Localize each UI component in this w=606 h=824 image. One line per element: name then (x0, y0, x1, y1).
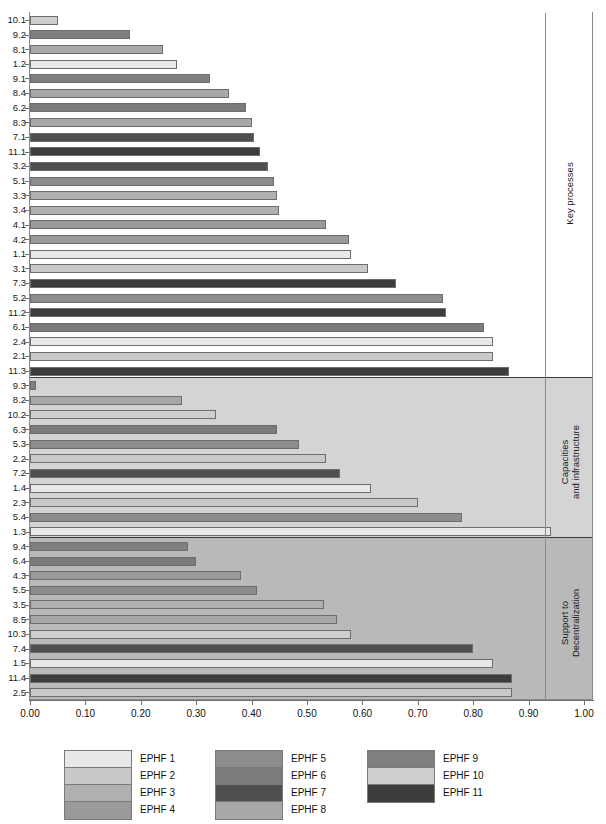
bar-row: 9.1 (0, 71, 594, 85)
bar-row: 6.2 (0, 101, 594, 115)
y-axis-tick (25, 195, 29, 196)
y-axis-tick (25, 546, 29, 547)
bar (30, 337, 493, 346)
bar-row: 8.2 (0, 393, 594, 407)
x-axis-tick (196, 700, 197, 705)
y-axis-tick (25, 532, 29, 533)
x-axis-tick-label: 0.00 (10, 708, 50, 719)
y-axis-label: 4.2 (0, 235, 26, 245)
legend-label: EPHF 6 (291, 767, 326, 784)
bar (30, 410, 216, 419)
bar (30, 177, 274, 186)
legend-swatches-2 (215, 750, 283, 820)
bar-row: 4.3 (0, 568, 594, 582)
y-axis-tick (25, 649, 29, 650)
bar (30, 615, 337, 624)
bar (30, 527, 551, 536)
legend-label: EPHF 1 (140, 750, 175, 767)
legend-swatch (216, 768, 282, 785)
bar (30, 323, 484, 332)
y-axis-label: 1.5 (0, 658, 26, 668)
bar-row: 8.3 (0, 115, 594, 129)
legend-swatches-1 (64, 750, 132, 820)
y-axis-label: 2.3 (0, 498, 26, 508)
y-axis-label: 4.1 (0, 220, 26, 230)
y-axis-label: 9.2 (0, 30, 26, 40)
y-axis-label: 5.1 (0, 176, 26, 186)
legend-label: EPHF 3 (140, 784, 175, 801)
y-axis-tick (25, 356, 29, 357)
y-axis-tick (25, 415, 29, 416)
y-axis-label: 3.4 (0, 205, 26, 215)
y-axis-tick (25, 122, 29, 123)
y-axis-tick (25, 342, 29, 343)
legend: EPHF 1EPHF 2EPHF 3EPHF 4 EPHF 5EPHF 6EPH… (0, 742, 606, 822)
y-axis-label: 5.4 (0, 512, 26, 522)
y-axis-label: 4.3 (0, 571, 26, 581)
y-axis-label: 9.1 (0, 74, 26, 84)
y-axis-tick (25, 473, 29, 474)
y-axis-label: 1.3 (0, 527, 26, 537)
bar-row: 2.4 (0, 335, 594, 349)
y-axis-tick (25, 254, 29, 255)
y-axis-tick (25, 459, 29, 460)
y-axis-label: 6.1 (0, 322, 26, 332)
legend-label: EPHF 5 (291, 750, 326, 767)
y-axis-label: 10.1 (0, 15, 26, 25)
y-axis-tick (25, 210, 29, 211)
y-axis-tick (25, 634, 29, 635)
y-axis-label: 11.1 (0, 147, 26, 157)
bar (30, 250, 351, 259)
bar (30, 30, 130, 39)
bar-row: 5.1 (0, 174, 594, 188)
bar-row: 2.2 (0, 452, 594, 466)
y-axis-label: 5.5 (0, 585, 26, 595)
y-axis-label: 10.2 (0, 410, 26, 420)
bar (30, 235, 349, 244)
y-axis-label: 8.3 (0, 118, 26, 128)
bar (30, 600, 324, 609)
bar (30, 644, 473, 653)
panel-label-box: Capacitiesand infrastructure (545, 378, 593, 539)
bar-row: 2.5 (0, 685, 594, 699)
bar-row: 8.4 (0, 86, 594, 100)
y-axis-label: 11.3 (0, 366, 26, 376)
y-axis-tick (25, 327, 29, 328)
y-axis-label: 8.5 (0, 615, 26, 625)
y-axis-label: 7.3 (0, 278, 26, 288)
y-axis-label: 2.5 (0, 688, 26, 698)
bar-row: 7.4 (0, 642, 594, 656)
bar-row: 2.1 (0, 349, 594, 363)
bar (30, 484, 371, 493)
bar-row: 7.3 (0, 276, 594, 290)
x-axis-tick (362, 700, 363, 705)
x-axis-tick-label: 0.80 (453, 708, 493, 719)
x-axis-tick-label: 0.70 (398, 708, 438, 719)
bar-row: 4.1 (0, 218, 594, 232)
legend-swatch (65, 802, 131, 819)
y-axis-tick (25, 429, 29, 430)
bar-row: 7.1 (0, 130, 594, 144)
y-axis-tick (25, 20, 29, 21)
bar-row: 2.3 (0, 495, 594, 509)
bar (30, 89, 229, 98)
legend-label: EPHF 10 (443, 767, 484, 784)
bar (30, 133, 254, 142)
bar (30, 586, 257, 595)
bar (30, 60, 177, 69)
bar-row: 5.5 (0, 583, 594, 597)
chart-root: 10.19.28.11.29.18.46.28.37.111.13.25.13.… (0, 0, 606, 824)
y-axis-tick (25, 239, 29, 240)
y-axis-tick (25, 268, 29, 269)
legend-swatch (368, 751, 434, 768)
y-axis-label: 8.1 (0, 45, 26, 55)
bar-row: 6.1 (0, 320, 594, 334)
y-axis-tick (25, 488, 29, 489)
bar (30, 381, 36, 390)
y-axis-tick (25, 400, 29, 401)
bar-row: 3.1 (0, 261, 594, 275)
y-axis-label: 11.4 (0, 673, 26, 683)
y-axis-label: 3.1 (0, 264, 26, 274)
x-axis-tick (418, 700, 419, 705)
x-axis-tick (141, 700, 142, 705)
